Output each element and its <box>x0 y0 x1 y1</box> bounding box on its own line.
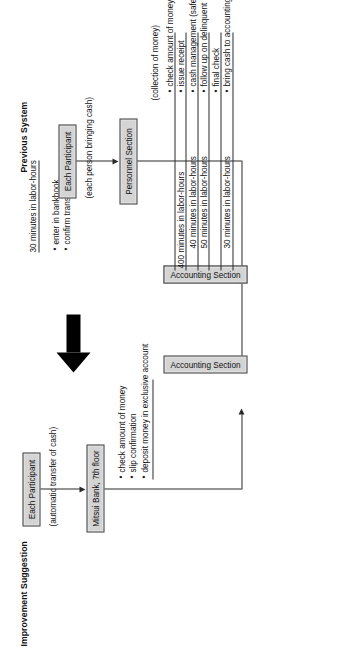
bullet-dot: • <box>211 89 220 92</box>
previous-system-section: Previous System Each Participant (each p… <box>0 0 341 668</box>
task-item: issue receipt <box>176 40 185 86</box>
task-metric: 30 minutes in labor-hours <box>222 156 231 248</box>
node-label: Accounting Section <box>170 270 240 279</box>
task-metric: 50 minutes in labor-hours <box>199 156 208 248</box>
section-title-previous: Previous System <box>18 101 28 172</box>
task-item: final check <box>211 47 220 86</box>
node-each-participant-previous[interactable]: Each Participant <box>58 124 76 198</box>
node-label: Each Participant <box>63 131 72 191</box>
caption-each-person-bringing-cash: (each person bringing cash) <box>84 97 93 199</box>
node-personnel-section-previous[interactable]: Personnel Section <box>119 118 137 204</box>
task-metric: 400 minutes in labor-hours <box>176 171 185 268</box>
connector-to-accounting-prev <box>241 160 242 270</box>
task-item: cash management (safe-deposit box) <box>188 0 197 86</box>
bullet-dot: • <box>199 89 208 92</box>
node-accounting-section-previous[interactable]: Accounting Section <box>163 265 247 283</box>
caption-collection-of-money: (collection of money) <box>150 24 159 100</box>
node-label: Personnel Section <box>124 128 133 194</box>
task-item: check amount of money <box>165 0 174 86</box>
task-item: follow up on delinquent payers <box>199 0 208 86</box>
bullet-dot: • <box>188 89 197 92</box>
bullet-dot: • <box>222 89 231 92</box>
diagram-canvas: Improvement Suggestion Each Participant … <box>0 0 341 668</box>
arrowhead-to-personnel-prev <box>112 159 118 165</box>
bullet-dot: • <box>165 89 174 92</box>
task-metric: 40 minutes in labor-hours <box>188 156 197 248</box>
task-item: bring cash to accounting <box>222 0 231 86</box>
bullet-dot: • <box>176 89 185 92</box>
connector-participant-to-personnel-prev <box>76 160 113 161</box>
